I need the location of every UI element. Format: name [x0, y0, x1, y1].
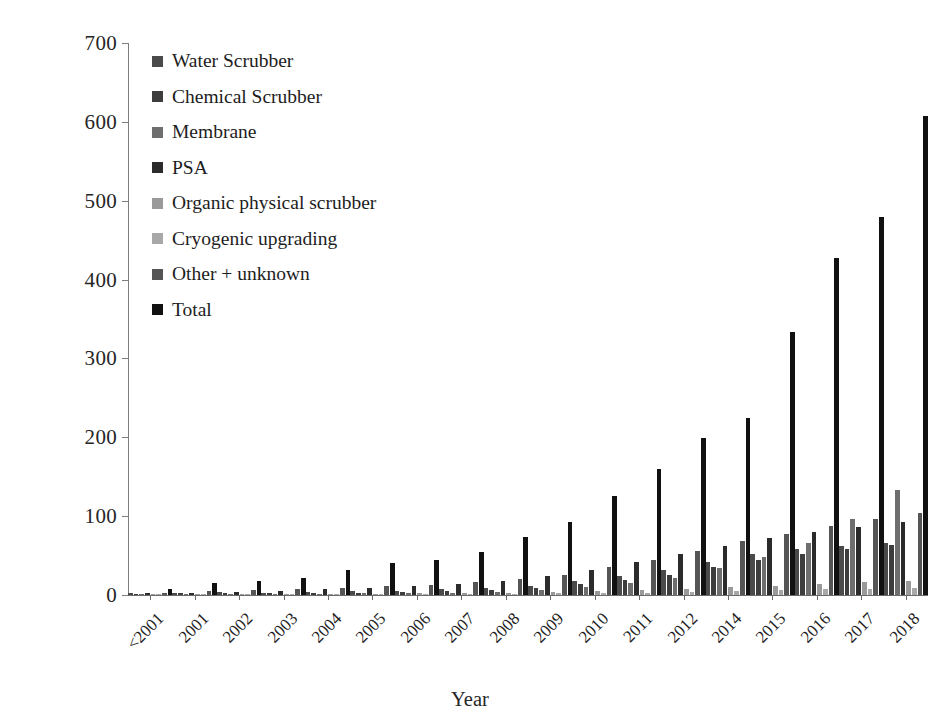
bar	[395, 591, 400, 595]
bar-group	[750, 43, 794, 595]
bar	[340, 588, 345, 595]
bar	[661, 570, 666, 595]
bar	[856, 527, 861, 595]
bar	[484, 588, 489, 595]
bar	[906, 581, 911, 595]
bar	[267, 593, 272, 595]
y-axis-tick-label: 100	[85, 504, 117, 529]
bar	[556, 593, 561, 595]
x-axis-category-label: 2006	[390, 609, 435, 654]
bar	[572, 581, 577, 595]
x-axis-tick	[906, 595, 907, 600]
bar	[651, 560, 656, 595]
bar	[489, 590, 494, 595]
x-axis-category-label: 2007	[434, 609, 479, 654]
bar	[501, 581, 506, 595]
bar-group	[395, 43, 439, 595]
x-axis-tick	[328, 595, 329, 600]
bar	[145, 593, 150, 595]
x-axis-category-label: 2014	[701, 609, 746, 654]
bar	[162, 593, 167, 595]
bar	[273, 594, 278, 595]
bar	[862, 582, 867, 595]
bar	[762, 557, 767, 595]
x-axis-tick	[861, 595, 862, 600]
legend-item: Cryogenic upgrading	[152, 228, 376, 250]
bar	[889, 545, 894, 595]
bar	[795, 549, 800, 595]
bar	[323, 589, 328, 595]
bar	[412, 586, 417, 595]
x-axis-line	[128, 595, 928, 596]
bar	[734, 591, 739, 595]
x-axis-tick	[772, 595, 773, 600]
bar-group	[884, 43, 928, 595]
x-axis-category-label: 2001	[168, 609, 213, 654]
bar	[667, 575, 672, 596]
bar	[601, 593, 606, 595]
bar	[578, 584, 583, 595]
bar	[356, 593, 361, 595]
x-axis-category-label: 2003	[256, 609, 301, 654]
bar	[334, 594, 339, 595]
bar	[528, 586, 533, 595]
x-axis-category-label: 2008	[479, 609, 524, 654]
y-axis-tick-label: 500	[85, 188, 117, 213]
bar	[350, 591, 355, 595]
legend-item: PSA	[152, 157, 376, 179]
bar	[223, 593, 228, 595]
chart-legend: Water ScrubberChemical ScrubberMembraneP…	[152, 50, 376, 321]
x-axis-tick	[684, 595, 685, 600]
bar	[750, 554, 755, 595]
bar	[172, 593, 177, 595]
x-axis-tick	[817, 595, 818, 600]
legend-swatch-icon	[152, 91, 163, 102]
bar-group	[839, 43, 883, 595]
y-axis-tick-label: 700	[85, 31, 117, 56]
x-axis-category-label: 2005	[345, 609, 390, 654]
bar	[767, 538, 772, 595]
bar	[367, 588, 372, 595]
bar	[495, 592, 500, 595]
bar-group	[439, 43, 483, 595]
legend-swatch-icon	[152, 127, 163, 138]
legend-label: PSA	[172, 157, 208, 179]
bar	[462, 593, 467, 595]
bar	[868, 589, 873, 595]
bar	[829, 526, 834, 595]
bar	[151, 594, 156, 595]
bar	[423, 594, 428, 595]
bar	[918, 513, 923, 595]
legend-item: Organic physical scrubber	[152, 192, 376, 214]
bar-group	[661, 43, 705, 595]
bar	[812, 532, 817, 595]
legend-label: Total	[172, 299, 212, 321]
x-axis-category-label: 2016	[790, 609, 835, 654]
bar	[545, 576, 550, 595]
legend-item: Chemical Scrubber	[152, 86, 376, 108]
bar	[445, 591, 450, 595]
bar	[784, 534, 789, 596]
x-axis-category-label: 2018	[879, 609, 924, 654]
bar	[234, 592, 239, 595]
bar-group	[484, 43, 528, 595]
bar	[673, 578, 678, 595]
bar	[328, 594, 333, 595]
bar	[195, 594, 200, 595]
bar	[740, 541, 745, 595]
bar	[873, 519, 878, 595]
y-axis-tick-label: 400	[85, 267, 117, 292]
bar	[640, 590, 645, 595]
bar	[800, 554, 805, 595]
legend-label: Membrane	[172, 121, 256, 143]
bar	[584, 587, 589, 595]
x-axis-category-label: 2015	[745, 609, 790, 654]
bar	[728, 587, 733, 595]
x-axis-category-label: 2004	[301, 609, 346, 654]
bar-chart-figure: Number of upgrading plants 0100200300400…	[0, 0, 940, 727]
bar	[628, 583, 633, 595]
bar	[468, 594, 473, 595]
bar	[823, 589, 828, 595]
bar	[901, 522, 906, 595]
x-axis-tick	[150, 595, 151, 600]
